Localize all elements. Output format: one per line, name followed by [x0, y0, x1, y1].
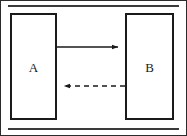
edge-a-to-b-solid-arrow: [56, 41, 126, 53]
top-horizontal-rule: [8, 5, 179, 7]
node-box-b: B: [125, 13, 174, 120]
edge-b-to-a-dashed-arrow: [56, 80, 126, 92]
node-label-b: B: [127, 60, 172, 73]
bottom-horizontal-rule: [8, 128, 179, 130]
figure-container: A B: [0, 0, 187, 136]
node-label-a: A: [12, 60, 55, 73]
node-box-a: A: [10, 13, 57, 120]
